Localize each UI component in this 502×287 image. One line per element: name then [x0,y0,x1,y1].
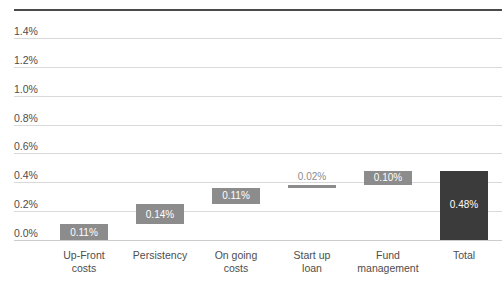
bars-layer: 0.11%Up-Front costs0.14%Persistency0.11%… [0,0,502,287]
bar-value-label: 0.11% [198,190,274,201]
bar-value-label: 0.11% [46,227,122,238]
x-axis-category-label: Fund management [350,249,426,275]
waterfall-chart: 1.4%1.2%1.0%0.8%0.6%0.4%0.2%0.0% 0.11%Up… [0,0,502,287]
x-axis-category-label: Up-Front costs [46,249,122,275]
bar-value-label: 0.48% [426,199,502,210]
bar-slot: 0.10%Fund management [350,0,426,287]
bar-slot: 0.02%Start up loan [274,0,350,287]
x-axis-category-label: Persistency [122,249,198,262]
x-axis-category-label: Total [426,249,502,262]
bar-value-label: 0.10% [350,172,426,183]
bar-value-label: 0.02% [274,171,350,182]
bar-increase[interactable] [288,185,336,188]
x-axis-category-label: Start up loan [274,249,350,275]
bar-slot: 0.14%Persistency [122,0,198,287]
x-axis-category-label: On going costs [198,249,274,275]
bar-slot: 0.48%Total [426,0,502,287]
bar-value-label: 0.14% [122,209,198,220]
bar-slot: 0.11%On going costs [198,0,274,287]
bar-slot: 0.11%Up-Front costs [46,0,122,287]
